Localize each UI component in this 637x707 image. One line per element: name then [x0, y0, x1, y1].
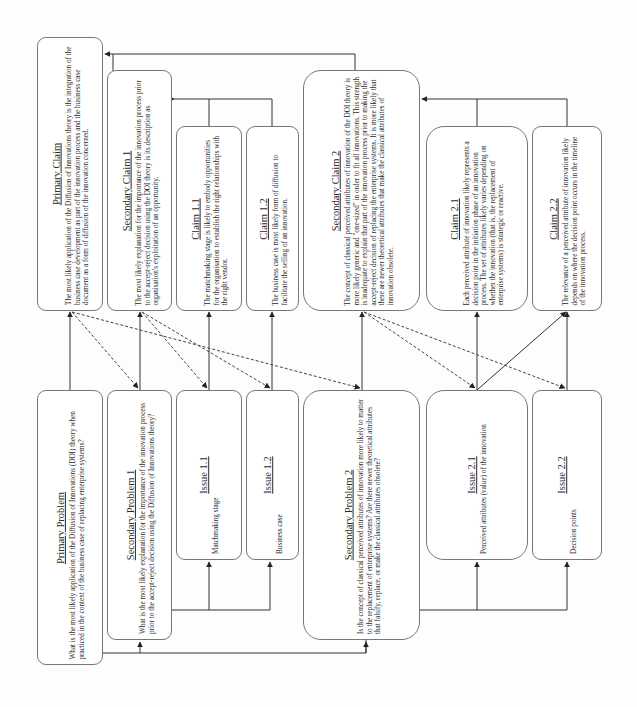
- secondary-problem-1-box: Secondary Problem 1 What is the most lik…: [107, 390, 172, 640]
- issue-1-1-text: Matchmaking stage: [212, 396, 221, 554]
- secondary-problem-1-text: What is the most likely explanation for …: [138, 396, 155, 634]
- issue-1-2-title: Issue 1.2: [261, 396, 274, 554]
- issue-2-2-text: Decision points: [570, 396, 579, 554]
- secondary-claim-2-text: The concept of classical perceived attri…: [343, 76, 395, 305]
- claim-2-2-text: The relevance of a perceived attribute o…: [562, 132, 588, 305]
- claim-1-1-box: Claim 1.1 The matchmaking stage is likel…: [176, 126, 242, 311]
- claim-2-1-title: Claim 2.1: [448, 132, 461, 305]
- issue-1-2-text: Business case: [276, 396, 285, 554]
- argument-map-diagram: Primary Claim The most likely applicatio…: [0, 0, 637, 707]
- claim-1-2-text: The business case is most likely form of…: [271, 132, 288, 305]
- secondary-problem-2-title: Secondary Problem 2: [341, 396, 354, 634]
- issue-1-1-title: Issue 1.1: [197, 396, 210, 554]
- claim-1-1-text: The matchmaking stage is likely to embod…: [204, 132, 230, 305]
- primary-problem-text: What is the most likely application of t…: [69, 396, 86, 659]
- secondary-problem-2-box: Secondary Problem 2 Is the concept of cl…: [303, 390, 420, 640]
- claim-2-1-text: Each perceived attribute of innovation l…: [463, 132, 506, 305]
- primary-problem-title: Primary Problem: [54, 396, 67, 659]
- claim-2-1-box: Claim 2.1 Each perceived attribute of in…: [426, 126, 528, 311]
- primary-claim-text: The most likely application of the Diffu…: [65, 43, 91, 305]
- primary-problem-box: Primary Problem What is the most likely …: [37, 390, 103, 665]
- claim-2-2-title: Claim 2.2: [547, 132, 560, 305]
- secondary-claim-1-text: The most likely explanation for the impo…: [134, 76, 160, 305]
- secondary-claim-2-box: Secondary Claim 2 The concept of classic…: [303, 70, 420, 311]
- claim-2-2-box: Claim 2.2 The relevance of a perceived a…: [532, 126, 602, 311]
- issue-2-1-text: Perceived attributes (value) of the inno…: [480, 396, 489, 554]
- primary-claim-title: Primary Claim: [50, 43, 63, 305]
- issue-1-1-box: Issue 1.1 Matchmaking stage: [176, 390, 242, 560]
- claim-1-2-title: Claim 1.2: [256, 132, 269, 305]
- secondary-problem-2-text: Is the concept of classical perceived at…: [356, 396, 382, 634]
- secondary-claim-1-box: Secondary Claim 1 The most likely explan…: [107, 70, 172, 311]
- primary-claim-box: Primary Claim The most likely applicatio…: [37, 37, 103, 311]
- secondary-problem-1-title: Secondary Problem 1: [123, 396, 136, 634]
- issue-2-1-box: Issue 2.1 Perceived attributes (value) o…: [426, 390, 528, 560]
- issue-1-2-box: Issue 1.2 Business case: [246, 390, 299, 560]
- secondary-claim-1-title: Secondary Claim 1: [119, 76, 132, 305]
- claim-1-2-box: Claim 1.2 The business case is most like…: [246, 126, 299, 311]
- issue-2-2-title: Issue 2.2: [555, 396, 568, 554]
- issue-2-1-title: Issue 2.1: [465, 396, 478, 554]
- issue-2-2-box: Issue 2.2 Decision points: [532, 390, 602, 560]
- claim-1-1-title: Claim 1.1: [189, 132, 202, 305]
- secondary-claim-2-title: Secondary Claim 2: [328, 76, 341, 305]
